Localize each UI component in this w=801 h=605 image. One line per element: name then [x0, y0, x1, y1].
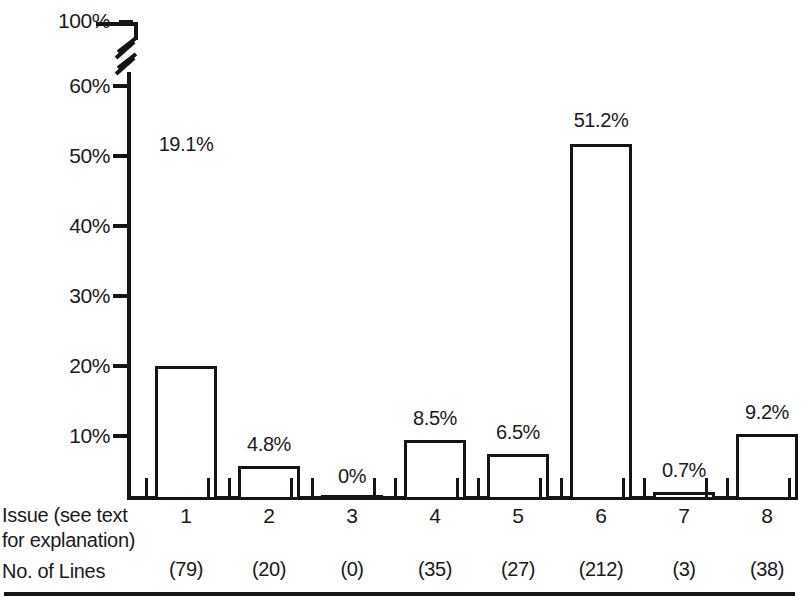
bar-slot-6: 51.2%	[570, 20, 632, 500]
x-tick-separator	[456, 478, 459, 500]
bar-value-label-7: 0.7%	[662, 460, 706, 480]
line-count-label-1: (79)	[149, 559, 223, 579]
bar-value-label-5: 6.5%	[496, 422, 540, 442]
x-tick-separator	[539, 478, 542, 500]
bar-chart-figure: 100% 60% 50% 40% 30% 20% 10% 19.1% 4.8%	[0, 0, 801, 605]
category-label-6: 6	[570, 505, 632, 526]
x-tick-separator	[477, 478, 480, 500]
line-count-label-3: (0)	[315, 559, 389, 579]
bar-slot-1: 19.1%	[155, 20, 217, 500]
line-count-label-6: (212)	[564, 559, 638, 579]
line-count-label-4: (35)	[398, 559, 472, 579]
y-tick-40: 40%	[0, 215, 110, 236]
bar-slot-8: 9.2%	[736, 20, 798, 500]
y-tick-mark-60	[113, 84, 131, 88]
bar-value-label-4: 8.5%	[413, 408, 457, 428]
y-tick-label-50: 50%	[18, 145, 110, 166]
y-tick-label-40: 40%	[18, 215, 110, 236]
line-count-label-8: (38)	[730, 559, 801, 579]
bar-slot-2: 4.8%	[238, 20, 300, 500]
y-tick-mark-10	[113, 434, 131, 438]
lines-row-label: No. of Lines	[2, 559, 105, 584]
x-tick-separator	[207, 478, 210, 500]
x-tick-separator	[726, 478, 729, 500]
bar-value-label-3: 0%	[338, 466, 366, 486]
issue-row-label: Issue (see text for explanation)	[2, 503, 135, 553]
issue-row-label-line2: for explanation)	[2, 529, 135, 551]
category-label-3: 3	[321, 505, 383, 526]
y-tick-mark-40	[113, 224, 131, 228]
y-tick-100: 100%	[0, 10, 110, 31]
line-count-label-7: (3)	[647, 559, 721, 579]
bar-slot-3: 0%	[321, 20, 383, 500]
y-tick-mark-50	[113, 154, 131, 158]
plot-area: 19.1% 4.8% 0% 8.5% 6.5% 51.2% 0.7%	[131, 20, 797, 500]
bar-value-label-8: 9.2%	[745, 402, 789, 422]
y-tick-label-60: 60%	[18, 75, 110, 96]
y-tick-30: 30%	[0, 285, 110, 306]
bar-slot-7: 0.7%	[653, 20, 715, 500]
bar-slot-5: 6.5%	[487, 20, 549, 500]
x-tick-separator	[290, 478, 293, 500]
x-tick-separator	[394, 478, 397, 500]
category-label-1: 1	[155, 505, 217, 526]
y-tick-label-100: 100%	[18, 10, 110, 31]
bar-value-label-2: 4.8%	[247, 434, 291, 454]
x-tick-separator	[622, 478, 625, 500]
y-tick-20: 20%	[0, 355, 110, 376]
line-count-label-2: (20)	[232, 559, 306, 579]
y-tick-60: 60%	[0, 75, 110, 96]
category-label-4: 4	[404, 505, 466, 526]
bar-6	[570, 144, 632, 500]
bar-slot-4: 8.5%	[404, 20, 466, 500]
category-label-5: 5	[487, 505, 549, 526]
category-label-2: 2	[238, 505, 300, 526]
x-tick-separator	[228, 478, 231, 500]
y-tick-10: 10%	[0, 425, 110, 446]
y-tick-mark-20	[113, 364, 131, 368]
category-label-8: 8	[736, 505, 798, 526]
issue-row-label-line1: Issue (see text	[2, 504, 128, 526]
x-tick-separator	[705, 478, 708, 500]
x-tick-separator	[311, 478, 314, 500]
y-tick-label-10: 10%	[18, 425, 110, 446]
bottom-horizontal-rule	[4, 592, 795, 596]
x-tick-separator	[373, 478, 376, 500]
x-tick-separator	[560, 478, 563, 500]
x-tick-separator	[788, 478, 791, 500]
bar-value-label-6: 51.2%	[574, 110, 629, 130]
y-tick-label-30: 30%	[18, 285, 110, 306]
line-count-label-5: (27)	[481, 559, 555, 579]
x-tick-separator	[145, 478, 148, 500]
bar-value-label-1: 19.1%	[159, 134, 214, 154]
x-tick-separator	[643, 478, 646, 500]
category-label-7: 7	[653, 505, 715, 526]
y-tick-50: 50%	[0, 145, 110, 166]
y-tick-label-20: 20%	[18, 355, 110, 376]
y-tick-mark-30	[113, 294, 131, 298]
